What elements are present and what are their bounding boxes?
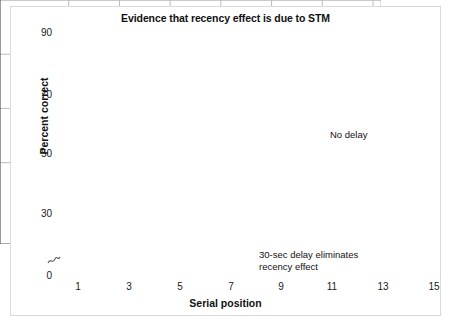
y-tick-90: 90: [18, 27, 52, 38]
axis-break-icon: [46, 252, 62, 268]
annotation-no-delay: No delay: [330, 129, 368, 141]
x-tick-9: 9: [266, 281, 296, 292]
x-tick-7: 7: [216, 281, 246, 292]
x-tick-1: 1: [63, 281, 93, 292]
x-tick-5: 5: [165, 281, 195, 292]
chart-figure: Evidence that recency effect is due to S…: [0, 0, 451, 324]
y-tick-50: 50: [18, 148, 52, 159]
x-tick-11: 11: [317, 281, 347, 292]
figure-frame: [10, 6, 441, 316]
y-tick-0: 0: [18, 270, 52, 281]
x-tick-3: 3: [114, 281, 144, 292]
x-tick-15: 15: [419, 281, 449, 292]
chart-title: Evidence that recency effect is due to S…: [0, 12, 451, 24]
y-tick-30: 30: [18, 208, 52, 219]
x-tick-13: 13: [368, 281, 398, 292]
x-axis-label: Serial position: [0, 297, 451, 309]
y-tick-70: 70: [18, 89, 52, 100]
annotation-delay: 30-sec delay eliminates recency effect: [259, 249, 358, 273]
